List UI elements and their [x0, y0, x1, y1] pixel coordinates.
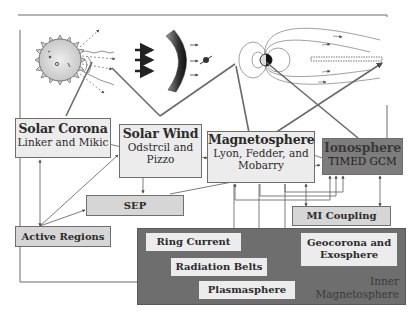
mi-coupling-title: MI Coupling	[293, 210, 390, 222]
solar-ejecta-rays	[80, 30, 115, 93]
small-particle-icon	[200, 56, 212, 64]
solar-corona-subtitle: Linker and Mikic	[16, 136, 110, 148]
active-regions-title: Active Regions	[16, 231, 110, 243]
region-label-line2: Magnetosphere	[315, 288, 399, 300]
ring-current-box[interactable]: Ring Current	[145, 232, 242, 252]
inner-magnetosphere-label: Inner Magnetosphere	[315, 275, 399, 302]
bow-shock-arc	[166, 30, 187, 92]
magnetosphere-subtitle-2: Mobarry	[208, 159, 314, 171]
plasmasphere-box[interactable]: Plasmasphere	[198, 280, 296, 300]
magnetosphere-subtitle-1: Lyon, Fedder, and	[208, 147, 314, 159]
earth-icon	[260, 54, 272, 66]
magnetotail-current-sheet	[311, 57, 382, 61]
ionosphere-box[interactable]: Ionosphere TIMED GCM	[322, 138, 403, 175]
solar-wind-subtitle-2: Pizzo	[120, 153, 201, 165]
solar-wind-title: Solar Wind	[120, 127, 201, 141]
radiation-belts-box[interactable]: Radiation Belts	[170, 257, 268, 277]
sun-icon	[35, 35, 85, 85]
radiation-belts-title: Radiation Belts	[171, 261, 267, 273]
magnetosphere-title: Magnetosphere	[208, 133, 314, 147]
ionosphere-title: Ionosphere	[323, 141, 402, 155]
sep-box[interactable]: SEP	[86, 195, 184, 216]
small-arrows	[190, 45, 198, 75]
sep-title: SEP	[87, 200, 183, 212]
ionosphere-subtitle: TIMED GCM	[323, 155, 402, 167]
mi-coupling-box[interactable]: MI Coupling	[292, 206, 391, 226]
geocorona-title-2: Exosphere	[301, 249, 397, 261]
ring-current-title: Ring Current	[146, 236, 241, 248]
solar-wind-box[interactable]: Solar Wind Odstrcil and Pizzo	[119, 124, 202, 178]
earth-magnetosphere-field-lines	[239, 28, 380, 84]
solar-wind-arrows	[135, 50, 152, 71]
region-label-line1: Inner	[370, 275, 399, 287]
solar-corona-box[interactable]: Solar Corona Linker and Mikic	[15, 118, 111, 158]
plasmasphere-title: Plasmasphere	[199, 284, 295, 296]
geocorona-exosphere-box[interactable]: Geocorona and Exosphere	[300, 232, 398, 267]
active-regions-box[interactable]: Active Regions	[15, 226, 111, 247]
solar-wind-subtitle-1: Odstrcil and	[120, 141, 201, 153]
magnetosphere-box[interactable]: Magnetosphere Lyon, Fedder, and Mobarry	[207, 131, 315, 183]
solar-corona-title: Solar Corona	[16, 122, 110, 136]
geocorona-title-1: Geocorona and	[301, 237, 397, 249]
